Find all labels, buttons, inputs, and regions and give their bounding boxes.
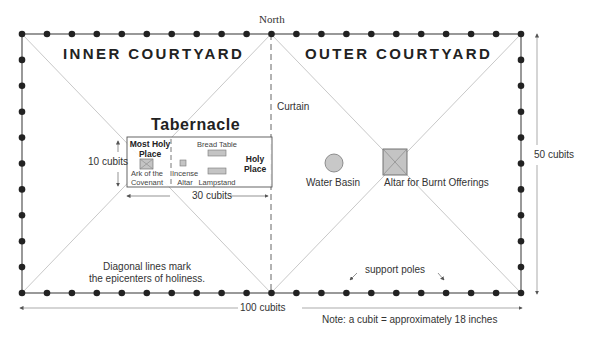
- support-pole-icon: [518, 264, 525, 271]
- support-pole-icon: [94, 290, 101, 297]
- support-pole-icon: [69, 290, 76, 297]
- support-pole-icon: [19, 212, 26, 219]
- outer-courtyard-label: OUTER COURTYARD: [305, 46, 492, 61]
- support-pole-icon: [518, 238, 525, 245]
- support-pole-icon: [19, 186, 26, 193]
- ark-of-the-covenant-icon: [140, 159, 153, 169]
- support-pole-icon: [168, 290, 175, 297]
- holy-place-label: Holy Place: [240, 155, 270, 173]
- support-pole-icon: [518, 290, 525, 297]
- support-pole-icon: [493, 290, 500, 297]
- water-basin-label: Water Basin: [306, 178, 360, 188]
- support-pole-icon: [19, 134, 26, 141]
- most-holy-line1: Most Holy: [128, 140, 172, 149]
- tabernacle-width-label: 30 cubits: [192, 191, 232, 201]
- water-basin-icon: [325, 154, 343, 172]
- support-pole-icon: [193, 31, 200, 38]
- support-pole-icon: [69, 31, 76, 38]
- inner-courtyard-label: INNER COURTYARD: [63, 46, 244, 61]
- support-pole-icon: [19, 160, 26, 167]
- support-pole-icon: [518, 186, 525, 193]
- support-pole-icon: [243, 31, 250, 38]
- support-pole-icon: [218, 290, 225, 297]
- support-pole-icon: [293, 31, 300, 38]
- support-pole-icon: [443, 31, 450, 38]
- support-pole-pointer-right: [438, 273, 444, 280]
- support-pole-icon: [144, 290, 151, 297]
- support-pole-icon: [193, 290, 200, 297]
- courtyard-length-label: 100 cubits: [240, 303, 286, 313]
- lampstand-icon: [208, 168, 226, 174]
- altar-burnt-offerings-icon: [383, 149, 407, 175]
- ark-label: Ark of the Covenant: [129, 170, 165, 186]
- support-pole-icon: [44, 31, 51, 38]
- support-pole-icon: [268, 31, 275, 38]
- tabernacle-height-label: 10 cubits: [88, 157, 128, 167]
- support-pole-icon: [343, 31, 350, 38]
- tabernacle-diagram: North INNER COURTYARD OUTER COURTYARD Cu…: [0, 0, 590, 338]
- support-pole-icon: [518, 31, 525, 38]
- support-pole-icon: [19, 290, 26, 297]
- support-pole-icon: [19, 57, 26, 64]
- support-pole-icon: [368, 290, 375, 297]
- support-pole-icon: [293, 290, 300, 297]
- support-pole-icon: [443, 290, 450, 297]
- support-pole-icon: [19, 238, 26, 245]
- bread-table-icon: [208, 150, 226, 156]
- support-pole-icon: [144, 31, 151, 38]
- support-pole-icon: [518, 134, 525, 141]
- curtain-label: Curtain: [277, 102, 309, 112]
- support-pole-icon: [168, 31, 175, 38]
- most-holy-line2: Place: [128, 150, 172, 159]
- support-pole-icon: [318, 31, 325, 38]
- support-pole-icon: [243, 290, 250, 297]
- cubit-note: Note: a cubit = approximately 18 inches: [322, 315, 497, 325]
- lampstand-label: Lampstand: [197, 179, 237, 187]
- north-label: North: [259, 14, 285, 25]
- incense-line2: Altar: [172, 179, 198, 187]
- support-pole-icon: [518, 212, 525, 219]
- support-pole-icon: [518, 108, 525, 115]
- support-pole-icon: [218, 31, 225, 38]
- altar-burnt-offerings-label: Altar for Burnt Offerings: [384, 178, 489, 188]
- support-pole-icon: [94, 31, 101, 38]
- support-pole-icon: [19, 31, 26, 38]
- support-pole-icon: [493, 31, 500, 38]
- support-pole-icon: [19, 108, 26, 115]
- incense-altar-label: Incense Altar: [172, 170, 198, 186]
- incense-altar-icon: [180, 160, 186, 166]
- support-pole-icon: [418, 31, 425, 38]
- incense-line1: Incense: [172, 170, 198, 178]
- support-pole-icon: [44, 290, 51, 297]
- support-pole-icon: [393, 31, 400, 38]
- support-pole-icon: [318, 290, 325, 297]
- support-pole-icon: [518, 57, 525, 64]
- ark-line1: Ark of the: [129, 170, 165, 178]
- support-pole-icon: [119, 31, 126, 38]
- support-pole-icon: [19, 83, 26, 90]
- holy-place-line2: Place: [240, 165, 270, 174]
- support-pole-icon: [119, 290, 126, 297]
- support-pole-icon: [393, 290, 400, 297]
- diagonal-lines-note: Diagonal lines mark the epicenters of ho…: [82, 262, 212, 284]
- most-holy-place-label: Most Holy Place: [128, 140, 172, 158]
- tabernacle-title: Tabernacle: [151, 117, 240, 133]
- support-pole-icon: [268, 290, 275, 297]
- support-pole-icon: [19, 264, 26, 271]
- support-pole-icon: [343, 290, 350, 297]
- support-pole-icon: [518, 83, 525, 90]
- support-pole-icon: [368, 31, 375, 38]
- support-pole-icon: [468, 290, 475, 297]
- holy-place-line1: Holy: [240, 155, 270, 164]
- courtyard-width-label: 50 cubits: [534, 150, 574, 160]
- support-pole-icon: [418, 290, 425, 297]
- support-pole-pointer-left: [350, 273, 357, 280]
- diagonal-note-line2: the epicenters of holiness.: [82, 274, 212, 284]
- support-poles-label: support poles: [365, 265, 425, 275]
- diagonal-note-line1: Diagonal lines mark: [82, 262, 212, 272]
- support-pole-icon: [518, 160, 525, 167]
- bread-table-label: Bread Table: [197, 141, 237, 149]
- support-pole-icon: [468, 31, 475, 38]
- ark-line2: Covenant: [129, 179, 165, 187]
